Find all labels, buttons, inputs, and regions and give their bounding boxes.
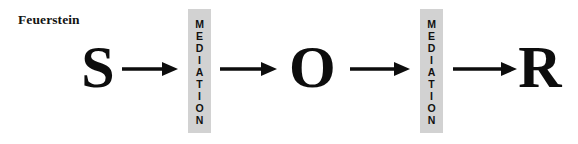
node-organism: O xyxy=(289,37,333,97)
mediation-bar-left: M E D I A T I O N xyxy=(188,9,211,133)
mediation-bar-right-label: M E D I A T I O N xyxy=(427,18,436,127)
figure-caption: Feuerstein xyxy=(18,13,80,27)
mediation-bar-left-label: M E D I A T I O N xyxy=(195,18,204,127)
arrow-right-icon xyxy=(453,56,517,82)
mediation-bar-right: M E D I A T I O N xyxy=(420,9,443,133)
node-response: R xyxy=(518,37,562,97)
node-stimulus: S xyxy=(78,37,118,97)
arrow-right-icon xyxy=(350,56,410,82)
feuerstein-mediated-learning-diagram: Feuerstein S M E D I A T I O N O M E D I… xyxy=(0,0,578,144)
arrow-right-icon xyxy=(122,56,178,82)
arrow-right-icon xyxy=(220,56,277,82)
